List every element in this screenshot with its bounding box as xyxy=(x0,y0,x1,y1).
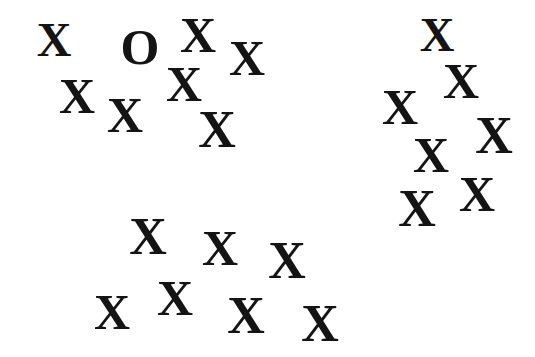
distractor-letter-x: X xyxy=(475,110,513,162)
distractor-letter-x: X xyxy=(94,287,130,337)
distractor-letter-x: X xyxy=(129,211,167,263)
distractor-letter-x: X xyxy=(229,33,265,83)
distractor-letter-x: X xyxy=(37,16,72,64)
target-letter-o: O xyxy=(121,22,160,72)
distractor-letter-x: X xyxy=(59,71,95,121)
distractor-letter-x: X xyxy=(382,82,418,132)
distractor-letter-x: X xyxy=(268,235,306,287)
distractor-letter-x: X xyxy=(227,290,265,342)
distractor-letter-x: X xyxy=(166,59,202,109)
distractor-letter-x: X xyxy=(413,130,449,180)
distractor-letter-x: X xyxy=(301,298,339,350)
distractor-letter-x: X xyxy=(398,183,436,235)
distractor-letter-x: X xyxy=(180,10,216,60)
distractor-letter-x: X xyxy=(420,11,455,59)
distractor-letter-x: X xyxy=(443,56,479,106)
distractor-letter-x: X xyxy=(459,169,495,219)
distractor-letter-x: X xyxy=(157,273,193,323)
distractor-letter-x: X xyxy=(202,223,238,273)
distractor-letter-x: X xyxy=(107,90,143,140)
distractor-letter-x: X xyxy=(198,104,236,156)
